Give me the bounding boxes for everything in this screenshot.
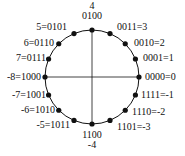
label-1110: 1110=-2 bbox=[132, 106, 165, 117]
point-marker-1001 bbox=[46, 92, 51, 97]
label-0101: 5=0101 bbox=[36, 21, 67, 32]
point-marker-1100 bbox=[89, 121, 94, 126]
point-marker-0110 bbox=[56, 41, 61, 46]
twos-complement-circle-diagram: 4 0100 1100 -4 0000=0 0001=1 0010=2 0011… bbox=[0, 0, 185, 156]
point-labels: 4 0100 1100 -4 0000=0 0001=1 0010=2 0011… bbox=[7, 0, 176, 150]
label-0110: 6=0110 bbox=[24, 37, 54, 48]
point-marker-1111 bbox=[133, 92, 138, 97]
label-0000: 0000=0 bbox=[145, 71, 176, 82]
label-0111: 7=0111 bbox=[16, 52, 46, 63]
label-1101: 1101=-3 bbox=[117, 121, 151, 132]
point-marker-0111 bbox=[46, 56, 51, 61]
bottom-value-label: -4 bbox=[88, 139, 96, 150]
point-marker-1000 bbox=[42, 74, 47, 79]
point-marker-0001 bbox=[133, 56, 138, 61]
point-marker-0100 bbox=[89, 27, 94, 32]
label-1001: -7=1001 bbox=[12, 89, 46, 100]
point-marker-0101 bbox=[71, 31, 76, 36]
label-0001: 0001=1 bbox=[143, 52, 174, 63]
point-marker-1101 bbox=[107, 118, 112, 123]
point-marker-0000 bbox=[136, 74, 141, 79]
label-1010: -6=1010 bbox=[21, 104, 55, 115]
point-marker-1010 bbox=[56, 108, 61, 113]
point-marker-1011 bbox=[71, 118, 76, 123]
label-0011: 0011=3 bbox=[117, 21, 147, 32]
label-1111: 1111=-1 bbox=[141, 89, 174, 100]
point-marker-0011 bbox=[107, 31, 112, 36]
point-marker-0010 bbox=[123, 41, 128, 46]
label-0010: 0010=2 bbox=[134, 37, 165, 48]
top-code-label: 0100 bbox=[82, 10, 102, 21]
label-1011: -5=1011 bbox=[36, 119, 70, 130]
point-marker-1110 bbox=[123, 108, 128, 113]
label-1000: -8=1000 bbox=[7, 71, 41, 82]
